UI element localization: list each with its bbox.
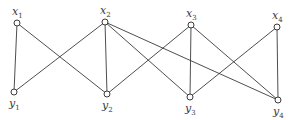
- node-x1: [14, 20, 20, 26]
- label-x2: x2: [100, 4, 111, 19]
- edge-x4-y4: [277, 27, 278, 100]
- edge-x1-y1: [14, 23, 17, 92]
- node-x3: [188, 22, 194, 28]
- node-x2: [102, 19, 108, 25]
- edge-x3-y3: [190, 25, 191, 97]
- label-x1: x1: [12, 5, 23, 20]
- edge-x4-y3: [190, 27, 277, 97]
- edge-x1-y2: [17, 23, 107, 94]
- edge-x2-y2: [105, 22, 107, 94]
- label-y3: y3: [184, 102, 196, 117]
- label-y1: y1: [8, 97, 20, 112]
- node-y2: [104, 91, 110, 97]
- edges-layer: [14, 22, 278, 100]
- node-y4: [275, 97, 281, 103]
- label-x4: x4: [272, 9, 283, 24]
- edge-x2-y4: [105, 22, 278, 100]
- label-y2: y2: [101, 99, 113, 114]
- node-x4: [274, 24, 280, 30]
- label-x3: x3: [186, 7, 197, 22]
- label-y4: y4: [272, 105, 284, 120]
- nodes-layer: [11, 19, 281, 103]
- node-y3: [187, 94, 193, 100]
- bipartite-graph: x1x2x3x4y1y2y3y4: [0, 0, 293, 120]
- node-y1: [11, 89, 17, 95]
